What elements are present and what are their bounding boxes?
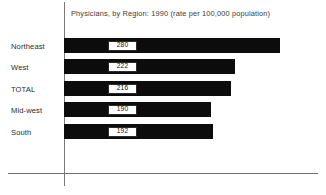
value-label-total: 216 — [117, 85, 129, 92]
chart-title: Physicians, by Region: 1990 (rate per 10… — [71, 9, 270, 18]
value-label-west: 222 — [117, 63, 129, 70]
baseline-rule — [8, 173, 318, 174]
bar-south — [64, 124, 213, 139]
value-label-south: 192 — [117, 128, 129, 135]
category-label-south: South — [11, 127, 31, 136]
bar-total — [64, 81, 231, 96]
value-box-total: 216 — [108, 84, 137, 94]
value-box-northeast: 280 — [108, 41, 137, 51]
bar-row: TOTAL 216 — [0, 81, 326, 96]
bar-northeast — [64, 38, 280, 53]
value-box-south: 192 — [108, 127, 137, 137]
bar-mid-west — [64, 102, 211, 117]
bar-row: South 192 — [0, 124, 326, 139]
category-label-mid-west: Mid-west — [11, 105, 42, 114]
bar-chart-figure: Physicians, by Region: 1990 (rate per 10… — [0, 0, 326, 195]
category-label-northeast: Northeast — [11, 41, 45, 50]
value-label-mid-west: 190 — [117, 106, 129, 113]
value-label-northeast: 280 — [117, 42, 129, 49]
value-box-mid-west: 190 — [108, 105, 137, 115]
category-label-west: West — [11, 62, 29, 71]
plot-area: Northeast 280 West 222 TOTAL 216 Mid-wes… — [0, 38, 326, 153]
bar-row: West 222 — [0, 59, 326, 74]
category-label-total: TOTAL — [11, 84, 35, 93]
bar-row: Mid-west 190 — [0, 102, 326, 117]
bar-west — [64, 59, 235, 74]
bar-row: Northeast 280 — [0, 38, 326, 53]
value-box-west: 222 — [108, 62, 137, 72]
